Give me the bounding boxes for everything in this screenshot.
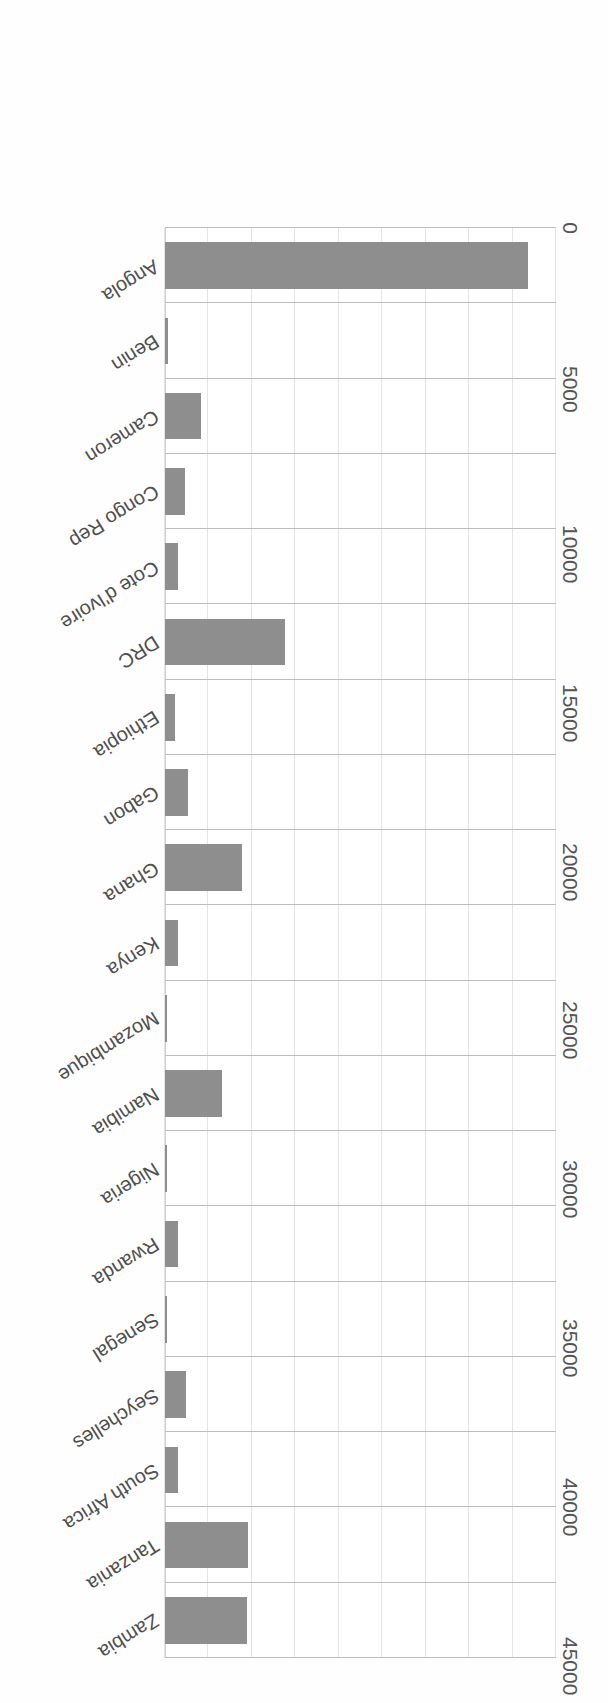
bar-senegal[interactable] bbox=[165, 1296, 167, 1343]
category-label-gabon: Gabon bbox=[100, 781, 163, 832]
bar-chart: 4500040000350003000025000200001500010000… bbox=[0, 0, 608, 1703]
bar-angola[interactable] bbox=[165, 242, 528, 289]
category-label-seychelles: Seychelles bbox=[69, 1383, 163, 1454]
tick-label-45000: 45000 bbox=[560, 1637, 582, 1679]
category-label-kenya: Kenya bbox=[103, 932, 163, 982]
category-separator bbox=[165, 1657, 556, 1658]
bar-gabon[interactable] bbox=[165, 769, 188, 816]
tick-label-30000: 30000 bbox=[560, 1160, 582, 1202]
tick-label-20000: 20000 bbox=[560, 843, 582, 885]
category-separator bbox=[165, 1431, 556, 1432]
category-label-angola: Angola bbox=[98, 254, 163, 307]
category-label-rwanda: Rwanda bbox=[89, 1233, 163, 1291]
bar-benin[interactable] bbox=[165, 318, 168, 365]
category-separator bbox=[165, 904, 556, 905]
tick-label-0: 0 bbox=[560, 207, 582, 249]
value-gridline bbox=[425, 228, 426, 1658]
category-label-cote-d-ivoire: Cote d'Ivoire bbox=[56, 555, 163, 634]
value-gridline bbox=[381, 228, 382, 1658]
category-label-nigeria: Nigeria bbox=[97, 1158, 163, 1211]
bar-namibia[interactable] bbox=[165, 1070, 222, 1117]
value-gridline bbox=[468, 228, 469, 1658]
category-label-tanzania: Tanzania bbox=[83, 1534, 163, 1596]
category-separator bbox=[165, 528, 556, 529]
category-separator bbox=[165, 679, 556, 680]
category-separator bbox=[165, 378, 556, 379]
category-label-benin: Benin bbox=[108, 330, 164, 377]
bar-kenya[interactable] bbox=[165, 920, 178, 967]
category-separator bbox=[165, 754, 556, 755]
bar-south-africa[interactable] bbox=[165, 1447, 178, 1494]
category-separator bbox=[165, 227, 556, 228]
category-separator bbox=[165, 829, 556, 830]
value-gridline bbox=[294, 228, 295, 1658]
value-gridline bbox=[338, 228, 339, 1658]
bar-ethiopia[interactable] bbox=[165, 694, 175, 741]
category-separator bbox=[165, 1356, 556, 1357]
category-label-ethiopia: Ethiopia bbox=[90, 706, 163, 764]
bar-rwanda[interactable] bbox=[165, 1221, 178, 1268]
rotated-figure-wrapper: 4500040000350003000025000200001500010000… bbox=[0, 0, 608, 1703]
value-axis-tick-labels: 4500040000350003000025000200001500010000… bbox=[548, 228, 590, 1658]
tick-label-40000: 40000 bbox=[560, 1478, 582, 1520]
tick-label-35000: 35000 bbox=[560, 1319, 582, 1361]
category-label-ghana: Ghana bbox=[100, 856, 163, 907]
category-label-drc: DRC bbox=[114, 631, 163, 673]
category-separator bbox=[165, 980, 556, 981]
category-label-cameron: Cameron bbox=[81, 405, 163, 468]
category-label-zambia: Zambia bbox=[94, 1609, 163, 1664]
value-gridline bbox=[251, 228, 252, 1658]
category-label-south-africa: South Africa bbox=[59, 1459, 163, 1536]
bar-mozambique[interactable] bbox=[165, 995, 167, 1042]
category-separator bbox=[165, 1130, 556, 1131]
category-separator bbox=[165, 1582, 556, 1583]
category-separator bbox=[165, 453, 556, 454]
bar-drc[interactable] bbox=[165, 619, 285, 666]
tick-label-10000: 10000 bbox=[560, 525, 582, 567]
value-gridline bbox=[207, 228, 208, 1658]
category-label-mozambique: Mozambique bbox=[54, 1007, 163, 1087]
category-label-congo-rep: Congo Rep bbox=[65, 480, 163, 553]
plot-area bbox=[165, 228, 556, 1658]
category-separator bbox=[165, 1506, 556, 1507]
bar-zambia[interactable] bbox=[165, 1597, 247, 1644]
category-separator bbox=[165, 1281, 556, 1282]
bar-cote-d-ivoire[interactable] bbox=[165, 543, 178, 590]
tick-label-5000: 5000 bbox=[560, 366, 582, 408]
bar-ghana[interactable] bbox=[165, 844, 242, 891]
bar-cameron[interactable] bbox=[165, 393, 201, 440]
bar-congo-rep[interactable] bbox=[165, 468, 185, 515]
bar-seychelles[interactable] bbox=[165, 1371, 186, 1418]
bar-tanzania[interactable] bbox=[165, 1522, 248, 1569]
category-separator bbox=[165, 603, 556, 604]
tick-label-15000: 15000 bbox=[560, 684, 582, 726]
category-separator bbox=[165, 1205, 556, 1206]
value-gridline bbox=[512, 228, 513, 1658]
category-separator bbox=[165, 302, 556, 303]
category-separator bbox=[165, 1055, 556, 1056]
category-label-namibia: Namibia bbox=[89, 1082, 163, 1140]
category-label-senegal: Senegal bbox=[89, 1308, 163, 1366]
bar-nigeria[interactable] bbox=[165, 1145, 167, 1192]
tick-label-25000: 25000 bbox=[560, 1001, 582, 1043]
category-axis-labels: ZambiaTanzaniaSouth AfricaSeychellesSene… bbox=[0, 228, 165, 1658]
